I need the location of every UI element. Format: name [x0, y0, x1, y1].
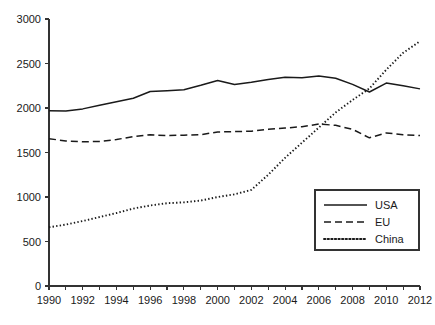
y-tick-label: 1000 — [17, 191, 41, 203]
x-tick-label: 2012 — [408, 294, 432, 306]
y-tick-label: 0 — [35, 280, 41, 292]
x-tick-label: 1998 — [172, 294, 196, 306]
y-tick-label: 3000 — [17, 13, 41, 25]
chart-canvas: 050010001500200025003000 199019921994199… — [0, 0, 435, 325]
legend-label-eu: EU — [375, 216, 390, 228]
x-tick-label: 2010 — [374, 294, 398, 306]
line-chart: 050010001500200025003000 199019921994199… — [0, 0, 435, 325]
x-tick-label: 1992 — [70, 294, 94, 306]
legend-label-china: China — [375, 233, 405, 245]
x-tick-label: 2008 — [340, 294, 364, 306]
y-tick-label: 500 — [23, 236, 41, 248]
x-tick-label: 2000 — [205, 294, 229, 306]
x-tick-label: 1990 — [37, 294, 61, 306]
y-tick-label: 2000 — [17, 102, 41, 114]
chart-legend: USAEUChina — [315, 190, 419, 250]
legend-label-usa: USA — [375, 199, 398, 211]
x-tick-label: 2006 — [307, 294, 331, 306]
x-tick-label: 2002 — [239, 294, 263, 306]
x-tick-label: 2004 — [273, 294, 297, 306]
x-tick-label: 1994 — [104, 294, 128, 306]
y-tick-label: 2500 — [17, 58, 41, 70]
y-tick-label: 1500 — [17, 147, 41, 159]
x-tick-label: 1996 — [138, 294, 162, 306]
chart-background — [0, 0, 435, 325]
